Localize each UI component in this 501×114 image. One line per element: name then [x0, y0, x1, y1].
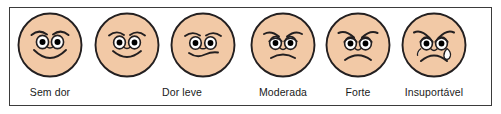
labels-row: Sem dorDor leveModeradaForteInsuportável	[0, 0, 501, 114]
pain-label-no-pain: Sem dor	[0, 86, 110, 98]
pain-rating-scale: Sem dorDor leveModeradaForteInsuportável	[0, 0, 501, 114]
pain-label-unbearable: Insuportável	[374, 86, 494, 98]
